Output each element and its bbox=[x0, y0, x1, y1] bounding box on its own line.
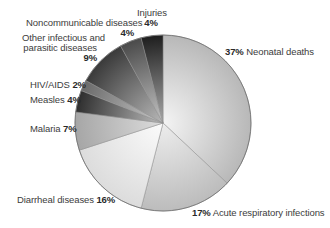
label-diarrheal-text: Diarrheal diseases bbox=[17, 194, 94, 205]
label-hiv-text: HIV/AIDS bbox=[30, 79, 70, 90]
label-measles-pct: 4% bbox=[67, 94, 81, 105]
label-diarrheal-pct: 16% bbox=[96, 194, 115, 205]
label-malaria: Malaria 7% bbox=[30, 124, 77, 134]
label-noncomm-pct: 4% bbox=[120, 27, 134, 38]
label-neonatal-deaths: 37% Neonatal deaths bbox=[225, 47, 314, 57]
label-neonatal-text: Neonatal deaths bbox=[246, 46, 314, 57]
label-measles-text: Measles bbox=[30, 94, 65, 105]
pie-slices bbox=[75, 35, 251, 211]
label-acute-text: Acute respiratory infections bbox=[213, 207, 325, 218]
label-hiv-aids: HIV/AIDS 2% bbox=[30, 80, 86, 90]
label-hiv-pct: 2% bbox=[72, 79, 86, 90]
label-noncommunicable: Noncommunicable diseases 4% bbox=[26, 18, 134, 38]
label-diarrheal: Diarrheal diseases 16% bbox=[17, 195, 115, 205]
label-acute-pct: 17% bbox=[192, 207, 211, 218]
label-neonatal-pct: 37% bbox=[225, 46, 244, 57]
label-malaria-text: Malaria bbox=[30, 123, 60, 134]
label-other-pct: 9% bbox=[83, 52, 97, 63]
label-noncomm-text: Noncommunicable diseases bbox=[26, 18, 134, 28]
label-injuries-pct: 4% bbox=[144, 17, 158, 28]
label-acute-respiratory: 17% Acute respiratory infections bbox=[192, 208, 325, 218]
label-measles: Measles 4% bbox=[30, 95, 81, 105]
label-injuries: Injuries 4% bbox=[137, 8, 165, 28]
label-malaria-pct: 7% bbox=[63, 123, 77, 134]
